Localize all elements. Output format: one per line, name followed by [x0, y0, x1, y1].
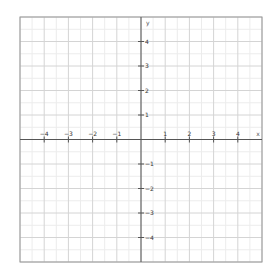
x-tick-label: −3 — [64, 130, 73, 137]
x-tick-label: −4 — [40, 130, 49, 137]
y-tick-label: 3 — [145, 62, 149, 69]
x-tick-label: 1 — [163, 130, 167, 137]
y-tick-label: 1 — [145, 111, 149, 118]
x-tick-label: −1 — [112, 130, 121, 137]
x-axis-label: x — [256, 130, 260, 137]
y-tick-label: 2 — [145, 87, 149, 94]
x-tick-label: −2 — [88, 130, 97, 137]
x-tick-label: 2 — [187, 130, 191, 137]
x-tick-labels: −4−3−2−11234 — [40, 130, 240, 137]
y-tick-label: −3 — [145, 209, 154, 216]
coordinate-plane: −4−3−2−11234 4321−1−2−3−4 x y — [0, 0, 276, 277]
x-tick-label: 3 — [212, 130, 216, 137]
y-tick-label: −2 — [145, 185, 154, 192]
y-axis-label: y — [146, 19, 150, 27]
y-tick-label: −1 — [145, 160, 154, 167]
x-tick-label: 4 — [236, 130, 240, 137]
y-tick-label: −4 — [145, 234, 154, 241]
y-tick-label: 4 — [145, 38, 149, 45]
